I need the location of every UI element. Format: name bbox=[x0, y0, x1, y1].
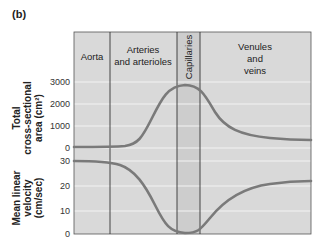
chart-svg: Aorta Arteries and arterioles Capillarie… bbox=[0, 0, 315, 247]
segment-label-and: and bbox=[247, 53, 263, 64]
velocity-axis-label-line3: (cm/sec) bbox=[33, 178, 44, 219]
velocity-tick-30: 30 bbox=[60, 156, 70, 166]
area-tick-0: 0 bbox=[65, 143, 70, 153]
segment-label-arteries: Arteries bbox=[127, 44, 160, 55]
velocity-axis-label: Mean linear velocity (cm/sec) bbox=[11, 170, 44, 225]
area-tick-1000: 1000 bbox=[50, 121, 70, 131]
segment-label-aorta: Aorta bbox=[81, 51, 104, 62]
velocity-axis-label-line2: velocity bbox=[22, 179, 33, 217]
segment-label-capillaries: Capillaries bbox=[183, 35, 194, 80]
velocity-tick-0: 0 bbox=[65, 229, 70, 239]
area-axis-label-line3: area (cm²) bbox=[33, 94, 44, 142]
area-axis-label: Total cross-sectional area (cm²) bbox=[11, 81, 44, 155]
segment-label-arterioles: and arterioles bbox=[114, 56, 172, 67]
segment-label-veins: veins bbox=[244, 65, 266, 76]
velocity-axis-label-line1: Mean linear bbox=[11, 170, 22, 225]
velocity-tick-20: 20 bbox=[60, 181, 70, 191]
area-tick-2000: 2000 bbox=[50, 99, 70, 109]
area-axis-label-line1: Total bbox=[11, 106, 22, 129]
area-tick-3000: 3000 bbox=[50, 77, 70, 87]
velocity-tick-10: 10 bbox=[60, 206, 70, 216]
area-axis-label-line2: cross-sectional bbox=[22, 81, 33, 155]
segment-label-venules: Venules bbox=[238, 41, 272, 52]
